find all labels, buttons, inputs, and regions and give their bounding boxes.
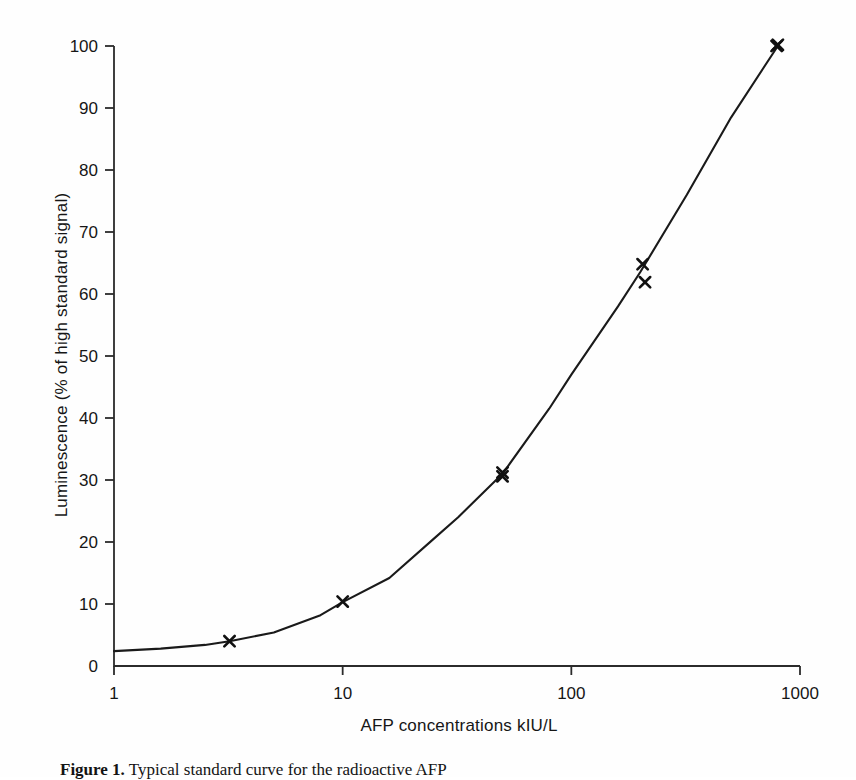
- caption-label: Figure 1.: [60, 760, 125, 779]
- svg-text:10: 10: [79, 595, 98, 614]
- svg-text:20: 20: [79, 533, 98, 552]
- caption-text: Typical standard curve for the radioacti…: [129, 760, 447, 779]
- axes: 01020304050607080901001101001000: [70, 37, 819, 703]
- svg-text:40: 40: [79, 409, 98, 428]
- svg-text:100: 100: [70, 37, 98, 56]
- svg-text:1: 1: [109, 684, 118, 703]
- figure-caption: Figure 1. Typical standard curve for the…: [60, 760, 800, 780]
- svg-text:60: 60: [79, 285, 98, 304]
- svg-text:50: 50: [79, 347, 98, 366]
- svg-text:90: 90: [79, 99, 98, 118]
- svg-text:0: 0: [89, 657, 98, 676]
- svg-text:100: 100: [557, 684, 585, 703]
- fitted-curve: [114, 46, 778, 651]
- svg-text:1000: 1000: [781, 684, 819, 703]
- y-axis-title: Luminescence (% of high standard signal): [52, 175, 72, 535]
- x-axis-title: AFP concentrations kIU/L: [114, 716, 804, 736]
- svg-text:10: 10: [333, 684, 352, 703]
- data-point-markers: [224, 40, 783, 647]
- svg-text:70: 70: [79, 223, 98, 242]
- svg-text:80: 80: [79, 161, 98, 180]
- svg-text:30: 30: [79, 471, 98, 490]
